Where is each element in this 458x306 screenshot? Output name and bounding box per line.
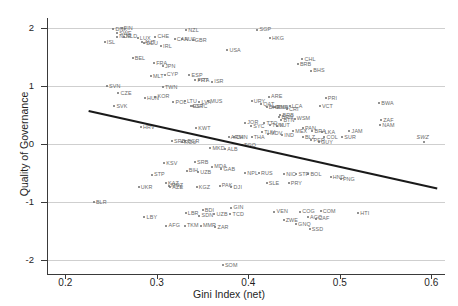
plot-area: DNKFINSWENORNLDLUXISLCHENZLAUTDEUCANAUSG… [47, 18, 445, 274]
x-tick-label: 0.2 [45, 277, 85, 288]
x-tick-label: 0.5 [320, 277, 360, 288]
x-tick-label: 0.6 [411, 277, 451, 288]
y-tick [41, 86, 47, 87]
y-axis-title: Quality of Governance [18, 54, 30, 234]
y-tick [41, 260, 47, 261]
y-tick [41, 144, 47, 145]
y-axis-line [47, 18, 48, 274]
regression-line [89, 111, 438, 188]
x-axis-line [47, 274, 445, 275]
trend-line [47, 18, 445, 274]
x-tick-label: 0.4 [228, 277, 268, 288]
y-tick [41, 202, 47, 203]
y-tick-label: 2 [8, 23, 34, 33]
y-tick [41, 28, 47, 29]
x-axis-title: Gini Index (net) [0, 288, 458, 300]
x-tick-label: 0.3 [137, 277, 177, 288]
scatter-plot-figure: DNKFINSWENORNLDLUXISLCHENZLAUTDEUCANAUSG… [0, 0, 458, 306]
y-tick-label: -2 [8, 255, 34, 265]
